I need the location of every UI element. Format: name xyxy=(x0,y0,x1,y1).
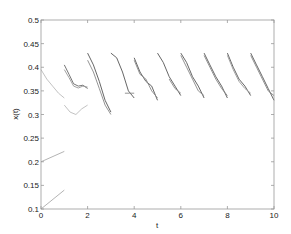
x-tick-label: 10 xyxy=(270,211,279,220)
y-tick-label: 0.45 xyxy=(23,40,39,49)
series-line-seg6-a xyxy=(181,53,204,98)
series-line-seg3-a xyxy=(111,53,134,98)
series-line-seg1-b xyxy=(64,65,87,89)
y-axis-ticks: 0.10.150.20.250.30.350.40.450.5 xyxy=(23,16,274,214)
x-tick-label: 4 xyxy=(132,211,137,220)
series-line-seg0-b xyxy=(41,151,64,161)
y-tick-label: 0.35 xyxy=(23,87,39,96)
series-line-seg0-c xyxy=(41,190,64,209)
series-line-seg0-a xyxy=(41,70,64,98)
x-tick-label: 6 xyxy=(179,211,184,220)
series-line-seg7-b xyxy=(204,55,227,95)
series-line-seg5-a xyxy=(158,53,181,96)
x-axis-ticks: 0246810 xyxy=(39,20,279,220)
series-line-seg2-b xyxy=(88,60,111,114)
y-tick-label: 0.5 xyxy=(28,16,40,25)
x-tick-label: 0 xyxy=(39,211,44,220)
x-tick-label: 2 xyxy=(85,211,90,220)
series-lines xyxy=(41,53,274,209)
y-tick-label: 0.25 xyxy=(23,134,39,143)
line-chart: 0246810 0.10.150.20.250.30.350.40.450.5 … xyxy=(0,0,291,234)
series-line-seg8-a xyxy=(227,53,250,96)
y-tick-label: 0.4 xyxy=(28,63,40,72)
series-line-seg9-b xyxy=(251,55,274,95)
y-tick-label: 0.3 xyxy=(28,111,40,120)
y-tick-label: 0.2 xyxy=(28,158,40,167)
y-tick-label: 0.15 xyxy=(23,181,39,190)
y-axis-label: x(t) xyxy=(11,108,20,120)
y-tick-label: 0.1 xyxy=(28,205,40,214)
x-axis-label: t xyxy=(156,221,159,230)
series-line-seg2-a xyxy=(88,53,111,112)
series-line-seg1-a xyxy=(64,105,87,114)
x-tick-label: 8 xyxy=(225,211,230,220)
